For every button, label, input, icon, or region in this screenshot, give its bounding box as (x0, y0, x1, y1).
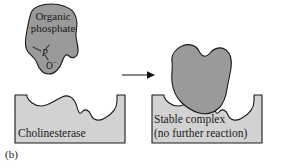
panel-label: (b) (5, 148, 18, 160)
stable-complex-line-1: Stable complex (154, 113, 247, 127)
bound-phosphate-blob (172, 45, 232, 114)
organic-phosphate-label: Organic phosphate (26, 10, 80, 35)
stable-complex-label: Stable complex (no further reaction) (154, 113, 247, 140)
stable-complex-line-2: (no further reaction) (154, 127, 247, 141)
oxygen-atom-label: O (46, 61, 53, 71)
reaction-arrow (122, 71, 155, 79)
phosphorus-atom-label: P (42, 48, 48, 58)
cholinesterase-label: Cholinesterase (18, 127, 86, 140)
oxygen-negative-charge-label: – (53, 58, 57, 66)
figure-panel-b: Organic phosphate P O – Cholinesterase S… (0, 0, 299, 167)
